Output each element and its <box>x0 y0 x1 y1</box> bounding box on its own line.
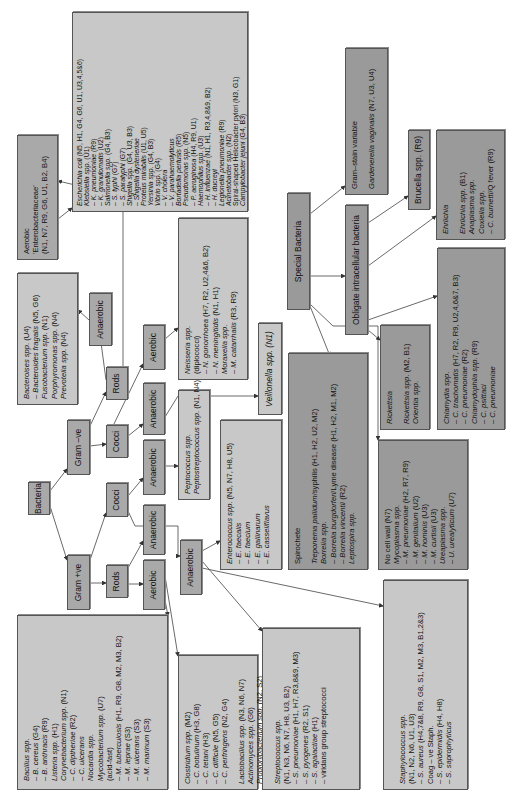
species-list: Gardenerella vaginalis (N7, U3, U4) <box>367 54 376 189</box>
arrow-obligate-ehrlichia <box>368 216 436 266</box>
box-title: Rickettsia <box>385 331 394 424</box>
species-line: Vibrio spp. (G4) <box>154 18 161 206</box>
box-gram-stain-variable: Gram–stain variable Gardenerella vaginal… <box>345 48 388 195</box>
species-line: Peptococcus spp. <box>183 396 192 494</box>
species-line: Ureaplasma spp. <box>438 446 447 564</box>
species-line: Yersinia spp. (G4, B3) <box>147 18 154 206</box>
text-line: Aerobic <box>22 141 31 254</box>
node-bacteria: Bacteria <box>28 482 50 515</box>
species-line: Acinetobacter spp. (N2) <box>225 18 232 206</box>
species-line: – M. pneumoniae (H2, R7, R9) <box>401 446 410 564</box>
arrow-bacteria-gram-pos <box>50 506 67 560</box>
species-line: – C. psittaci <box>479 254 488 424</box>
species-line: – E. gallinarum <box>253 426 262 564</box>
species-line: Orientia spp. <box>411 331 420 424</box>
species-line: Salmonella spp. (G4, B3) <box>104 18 111 206</box>
species-line: Haemophilus spp. (U3) <box>197 18 204 206</box>
species-line: (diplococci) <box>192 224 201 374</box>
species-line: Treponema pallidum/syphilis (H1, H2, U2,… <box>310 359 319 564</box>
species-list: Neisseria spp.(diplococci)– N. gonorrhoe… <box>183 224 238 374</box>
arrow-grampos-cocci <box>90 513 106 560</box>
species-line: Chlamydophila spp. (R9) <box>470 254 479 424</box>
node-gram-negative: Gram –ve <box>67 420 90 475</box>
species-line: – E. faecium <box>243 426 252 564</box>
species-line: Staphylococcus spp. <box>398 586 407 784</box>
species-line: – C. diptheriae (R2) <box>68 621 77 781</box>
arrow-anaerobic-streptococcus <box>202 561 262 631</box>
species-list: Bacteroises spp. (U4)– Bacteroides fraga… <box>22 279 68 399</box>
arrow-anaerobic-staphylococcus <box>202 568 383 606</box>
species-line: Corynebacterium spp. (N1) <box>59 621 68 781</box>
species-list: Escherichia coli (N5, H1, G4, G6, U1, U3… <box>76 18 246 206</box>
node-rods-gram-negative: Rods <box>106 367 128 400</box>
species-line: Gardenerella vaginalis (N7, U3, U4) <box>367 54 376 189</box>
species-line: Clostridium spp. (M2) <box>183 661 192 784</box>
species-line: – N. gonorrhoea (H7, R2, U2,4&6, B2) <box>201 224 210 374</box>
species-line: Mycoplasma spp. <box>392 446 401 564</box>
text-line: Veillonella spp. (N1) <box>265 331 274 407</box>
species-line: – E. faecalis <box>234 426 243 564</box>
species-list: Streptococcus spp.(N1, N3, N6, N7, H8, U… <box>273 634 328 784</box>
species-line: – P. aeruginosa (H4, R9, U1) <box>190 18 197 206</box>
species-line: – S. typhi (G7) <box>111 18 118 206</box>
node-obligate-intracellular: Obligate intracellular bacteria <box>345 205 368 335</box>
node-aerobic-gram-negative-cocci: Aerobic <box>143 325 165 370</box>
species-line: Moraxella spp. <box>220 224 229 374</box>
species-line: – C. pneumoniae (R2) <box>460 254 469 424</box>
species-line: Peptostreptococcus spp. (N1, N4) <box>192 396 201 494</box>
species-line: Leptospira spp. <box>347 359 356 564</box>
species-line: Mycobacterium spp. (U7) <box>96 621 105 781</box>
species-line: – H. ducreyi <box>211 18 218 206</box>
box-bacillus: Bacillus spp.– B. cereus (G4)– B. anthra… <box>17 615 168 790</box>
box-enterobacteriaceae-species: Escherichia coli (N5, H1, G4, G6, U1, U3… <box>72 12 248 212</box>
species-line: Borrelia spp. <box>319 359 328 564</box>
species-line: Actinomyces spp. (G6) <box>246 661 255 784</box>
species-line: Rickettsia spp. (M2, B1) <box>402 331 411 424</box>
species-line: – V. parahaemolyticus <box>168 18 175 206</box>
text-line: 'Enterobacteriaceae' <box>31 141 40 254</box>
species-line: Chlamydia spp. <box>442 254 451 424</box>
species-line: Listeria spp. (H1) <box>50 621 59 781</box>
box-aerobic-enterobacteriaceae: Aerobic 'Enterobacteriaceae' (N1, N7, R9… <box>17 135 58 260</box>
node-anaerobic-gram-negative-cocci: Anaerobic <box>143 383 165 435</box>
box-veillonella: Veillonella spp. (N1) <box>258 323 282 415</box>
node-aerobic-gram-positive-rods: Aerobic <box>143 560 165 610</box>
species-line: Campylobacter jejuni (G4, B3) <box>239 18 246 206</box>
species-line: Prevotella spp. (N4) <box>59 279 68 399</box>
node-special-bacteria: Special Bacteria <box>287 193 310 310</box>
bacteria-classification-diagram: Bacteria Gram +ve Gram –ve Rods Cocci Ro… <box>0 0 517 796</box>
species-line: – M. curtisii (U3) <box>429 446 438 564</box>
arrow-coccineg-anaerobic <box>128 424 143 436</box>
box-title: Spirochete <box>293 359 302 564</box>
species-line: Proteus mirabilis (U1, U5) <box>140 18 147 206</box>
species-line: – S. saprophyticus <box>444 586 453 784</box>
species-list: Enterococcus spp. (N5, N7, H8, U5)– E. f… <box>225 426 271 564</box>
species-line: – U. urealyticum (U7) <box>447 446 456 564</box>
arrow-obligate-chlamydia <box>368 296 437 320</box>
box-staphylococcus: Staphylococcus spp.(N1, N2, N6, U1, U3)–… <box>383 580 468 790</box>
species-line: Streptococcus spp. <box>273 634 282 784</box>
species-line: – C. perfringens (N2, G4) <box>220 661 229 784</box>
species-line: Pseudomonas spp. (N5) <box>182 18 189 206</box>
species-list: Ehrlichia spp. (B1)Anaplasma spp.Coxiell… <box>458 136 495 234</box>
species-list: Bacillus spp.– B. cereus (G4)– B. anthra… <box>22 621 151 781</box>
species-line: – Bacteroides fragalis (N5, G6) <box>31 279 40 399</box>
arrow-bacteria-gram-neg <box>50 469 67 491</box>
node-anaerobic-gram-negative-rods: Anaerobic <box>89 293 112 346</box>
species-list: No cell wall (N7)Mycoplasma spp.– M. pne… <box>383 446 457 564</box>
species-line: – B. anthracis (R9) <box>40 621 49 781</box>
species-line: (acid-fast) <box>105 621 114 781</box>
box-spirochete: Spirochete Treponema pallidum/syphilis (… <box>288 353 368 570</box>
arrow-special-gramvariable <box>310 186 345 214</box>
species-line: – S. epidermidis (H4, H8) <box>435 586 444 784</box>
species-line: – S. aureus (H4,7&8, R9, G8, S1, M2, M3,… <box>416 586 425 784</box>
box-bacteroides: Bacteroises spp. (U4)– Bacteroides fraga… <box>17 273 78 405</box>
species-line: – M. tuberculosis (H1, R9, G8, M2, M3, B… <box>114 621 123 781</box>
species-line: Bacillus spp. <box>22 621 31 781</box>
species-line: – M. hominis (U3) <box>420 446 429 564</box>
species-list: Peptococcus spp.Peptostreptococcus spp. … <box>183 396 201 494</box>
box-title: Gram–stain variable <box>350 54 359 189</box>
species-line: (N1, N3, N6, N7, H8, U3, B2) <box>282 634 291 784</box>
species-list: Treponema pallidum/syphilis (H1, H2, U2,… <box>310 359 356 564</box>
species-line: Lactobacillus spp. (N3, N6, N7) <box>237 661 246 784</box>
